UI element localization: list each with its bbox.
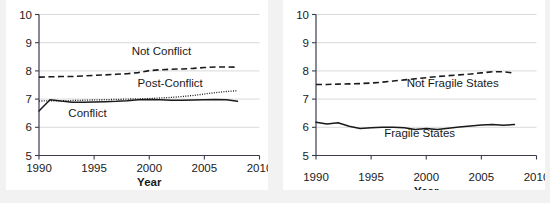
series-group	[39, 67, 237, 111]
x-tick-label-2000: 2000	[413, 171, 439, 183]
chart-panel-conflict: 567891019901995200020052010YearNot Confl…	[6, 0, 268, 190]
series-label-fragile-states: Fragile States	[384, 127, 455, 139]
y-tick-label-6: 6	[303, 121, 309, 133]
y-tick-label-7: 7	[303, 93, 309, 105]
y-axis: 5678910	[19, 9, 39, 162]
gridlines-group	[316, 15, 537, 128]
y-axis: 5678910	[296, 9, 316, 162]
y-tick-label-10: 10	[296, 9, 309, 21]
series-label-conflict: Conflict	[68, 107, 107, 119]
y-tick-label-8: 8	[303, 65, 309, 77]
series-annotations: Not Fragile StatesFragile States	[384, 77, 499, 139]
y-tick-label-9: 9	[303, 37, 309, 49]
chart-panel-fragility: 567891019901995200020052010YearNot Fragi…	[283, 0, 545, 190]
x-tick-label-1995: 1995	[81, 162, 107, 174]
y-tick-label-5: 5	[303, 150, 309, 162]
y-tick-label-9: 9	[26, 37, 32, 49]
x-tick-label-2005: 2005	[469, 171, 495, 183]
y-tick-label-5: 5	[26, 150, 32, 162]
y-tick-label-7: 7	[26, 93, 32, 105]
series-annotations: Not ConflictPost-ConflictConflict	[68, 45, 203, 119]
x-tick-label-1990: 1990	[26, 162, 52, 174]
x-axis: 19901995200020052010Year	[26, 156, 268, 188]
series-label-not-fragile-states: Not Fragile States	[407, 77, 499, 89]
x-tick-label-1995: 1995	[358, 171, 384, 183]
x-tick-label-2000: 2000	[136, 162, 162, 174]
x-axis-title: Year	[414, 185, 439, 191]
fragility-chart-svg: 567891019901995200020052010YearNot Fragi…	[283, 0, 545, 190]
series-label-post-conflict: Post-Conflict	[138, 77, 204, 89]
x-tick-label-2010: 2010	[247, 162, 268, 174]
x-axis: 19901995200020052010Year	[303, 156, 545, 191]
y-tick-label-10: 10	[19, 9, 32, 21]
series-label-not-conflict: Not Conflict	[132, 45, 192, 57]
x-tick-label-2010: 2010	[524, 171, 545, 183]
x-tick-label-1990: 1990	[303, 171, 329, 183]
x-axis-title: Year	[137, 176, 162, 188]
conflict-chart-svg: 567891019901995200020052010YearNot Confl…	[6, 0, 268, 190]
y-tick-label-8: 8	[26, 65, 32, 77]
x-tick-label-2005: 2005	[192, 162, 218, 174]
series-line-not-conflict	[39, 67, 237, 77]
y-tick-label-6: 6	[26, 121, 32, 133]
two-panel-line-chart-figure: 567891019901995200020052010YearNot Confl…	[0, 0, 550, 203]
